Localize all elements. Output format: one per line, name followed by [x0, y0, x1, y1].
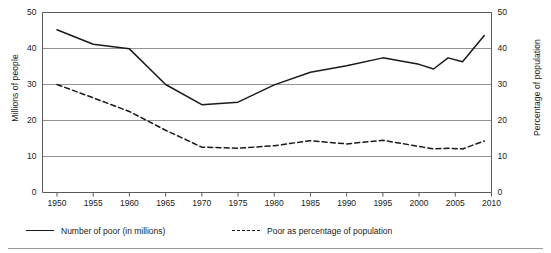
y-tick-label-right: 40 — [498, 43, 522, 53]
chart-plot-area — [0, 0, 551, 253]
y-tick-label-left: 40 — [13, 43, 37, 53]
y-tick-label-left: 20 — [13, 115, 37, 125]
x-tick-label: 1985 — [290, 198, 330, 208]
solid-line-icon — [26, 226, 54, 236]
y-tick-label-left: 0 — [13, 187, 37, 197]
legend-entry-2[interactable]: Poor as percentage of population — [232, 222, 392, 240]
axis-frame — [43, 13, 492, 193]
footer-divider — [8, 248, 543, 249]
y-tick-label-left: 10 — [13, 151, 37, 161]
legend-label: Number of poor (in millions) — [61, 226, 165, 236]
chart-figure: Millions of people Percentage of populat… — [0, 0, 551, 253]
x-tick-label: 2005 — [435, 198, 475, 208]
x-tick-label: 2010 — [472, 198, 512, 208]
legend-label: Poor as percentage of population — [267, 226, 392, 236]
x-tick-label: 1975 — [218, 198, 258, 208]
x-tick-label: 1960 — [109, 198, 149, 208]
legend-entry-1[interactable]: Number of poor (in millions) — [26, 222, 165, 240]
y-tick-label-right: 0 — [498, 187, 522, 197]
series-line-1 — [57, 30, 484, 105]
y-tick-label-left: 30 — [13, 79, 37, 89]
x-tick-label: 1990 — [327, 198, 367, 208]
y-tick-label-right: 30 — [498, 79, 522, 89]
gridlines — [43, 13, 492, 157]
x-tick-label: 1950 — [37, 198, 77, 208]
x-tick-label: 2000 — [399, 198, 439, 208]
x-tick-label: 1965 — [146, 198, 186, 208]
data-series-layer — [57, 30, 484, 149]
dashed-line-icon — [232, 226, 260, 236]
x-tick-label: 1955 — [73, 198, 113, 208]
x-tick-label: 1995 — [363, 198, 403, 208]
chart-legend: Number of poor (in millions)Poor as perc… — [0, 222, 551, 242]
y-tick-label-left: 50 — [13, 7, 37, 17]
axis-ticks — [57, 193, 492, 197]
y-tick-label-right: 50 — [498, 7, 522, 17]
y-tick-label-right: 20 — [498, 115, 522, 125]
series-line-2 — [57, 85, 484, 149]
x-tick-label: 1970 — [182, 198, 222, 208]
x-tick-label: 1980 — [254, 198, 294, 208]
y-tick-label-right: 10 — [498, 151, 522, 161]
